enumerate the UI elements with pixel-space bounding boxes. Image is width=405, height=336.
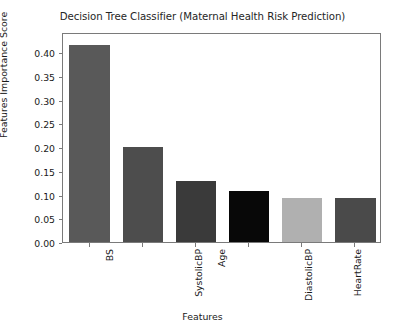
y-tick-label: 0.15 (34, 166, 55, 177)
plot-area (62, 33, 381, 243)
y-tick-mark (59, 53, 63, 54)
x-tick-mark (354, 243, 355, 247)
y-tick-mark (59, 196, 63, 197)
bar-age (176, 181, 216, 242)
x-axis-tick-labels: BSSystolicBPAgeDiastolicBPHeartRateBodyT… (62, 243, 381, 336)
y-tick-label: 0.00 (34, 238, 55, 249)
chart-title: Decision Tree Classifier (Maternal Healt… (0, 11, 405, 22)
x-tick-label-heartrate: HeartRate (352, 249, 363, 296)
bars-layer (63, 34, 380, 242)
y-tick-mark (59, 148, 63, 149)
y-tick-mark (59, 172, 63, 173)
bar-diastolicbp (229, 191, 269, 242)
x-axis-label: Features (0, 311, 405, 322)
chart-figure: Decision Tree Classifier (Maternal Healt… (0, 0, 405, 336)
y-tick-label: 0.35 (34, 72, 55, 83)
x-tick-mark (301, 243, 302, 247)
y-tick-mark (59, 219, 63, 220)
bar-systolicbp (123, 147, 163, 242)
y-tick-label: 0.40 (34, 48, 55, 59)
y-tick-label: 0.30 (34, 95, 55, 106)
y-tick-mark (59, 101, 63, 102)
y-tick-mark (59, 243, 63, 244)
y-tick-label: 0.25 (34, 119, 55, 130)
x-tick-mark (248, 243, 249, 247)
x-tick-label-diastolicbp: DiastolicBP (303, 249, 314, 301)
x-tick-mark (195, 243, 196, 247)
bar-bs (69, 45, 109, 242)
x-tick-mark (89, 243, 90, 247)
x-tick-mark (142, 243, 143, 247)
x-tick-label-age: Age (216, 249, 227, 267)
y-tick-mark (59, 77, 63, 78)
y-tick-label: 0.05 (34, 214, 55, 225)
bar-bodytemp (335, 198, 375, 242)
y-tick-mark (59, 124, 63, 125)
x-tick-label-systolicbp: SystolicBP (193, 249, 204, 297)
y-axis-tick-labels: 0.000.050.100.150.200.250.300.350.40 (0, 0, 55, 336)
y-tick-label: 0.20 (34, 143, 55, 154)
bar-heartrate (282, 198, 322, 242)
y-tick-label: 0.10 (34, 190, 55, 201)
x-tick-label-bs: BS (104, 249, 115, 261)
